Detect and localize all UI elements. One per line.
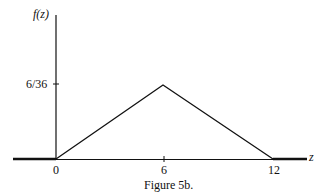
y-axis-label: f(z): [33, 8, 49, 20]
density-line: [56, 85, 273, 159]
x-tick-label-12: 12: [268, 164, 280, 176]
x-tick-label-6: 6: [161, 164, 167, 176]
x-axis-label: z: [309, 151, 314, 163]
x-tick-label-0: 0: [53, 164, 59, 176]
figure-caption: Figure 5b.: [144, 179, 193, 191]
y-tick-label: 6/36: [26, 78, 47, 90]
